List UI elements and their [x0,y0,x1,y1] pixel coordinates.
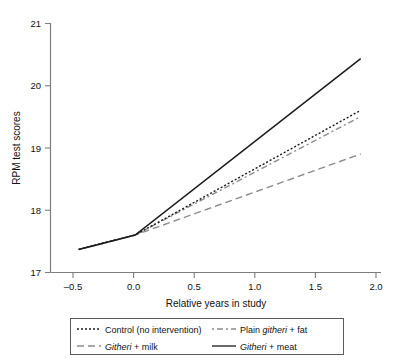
y-tick-label: 17 [30,267,41,278]
legend-label-githeri-meat: Githeri + meat [240,342,297,352]
x-tick-label: –0.5 [64,281,83,292]
legend-label-githeri-milk: Githeri + milk [105,342,158,352]
data-series-group [79,59,361,250]
y-axis-title: RPM test scores [11,111,22,184]
series-line-control [79,110,361,249]
legend-label-plain-githeri-fat: Plain githeri + fat [240,325,308,335]
x-tick-marks [73,273,376,279]
y-tick-label: 19 [30,143,41,154]
x-tick-label: 2.0 [369,281,382,292]
line-chart: 21 20 19 18 17 –0.5 0.0 0.5 1.0 1.5 2.0 … [0,0,413,361]
axes-group [45,23,381,278]
series-line-githeri-meat [79,59,361,250]
y-tick-label: 20 [30,80,41,91]
x-axis-title: Relative years in study [166,298,267,309]
x-tick-label: 0.5 [188,281,201,292]
x-tick-labels: –0.5 0.0 0.5 1.0 1.5 2.0 [64,281,383,292]
y-tick-label: 18 [30,205,41,216]
series-line-plain-githeri-fat [79,117,361,250]
chart-figure: 21 20 19 18 17 –0.5 0.0 0.5 1.0 1.5 2.0 … [0,0,413,361]
x-tick-label: 1.5 [309,281,322,292]
x-tick-label: 1.0 [248,281,261,292]
y-tick-label: 21 [30,18,41,29]
x-tick-label: 0.0 [127,281,140,292]
y-tick-marks [45,24,51,273]
legend-label-control: Control (no intervention) [105,325,202,335]
chart-legend: Control (no intervention) Plain githeri … [71,319,344,355]
y-tick-labels: 21 20 19 18 17 [30,18,41,278]
